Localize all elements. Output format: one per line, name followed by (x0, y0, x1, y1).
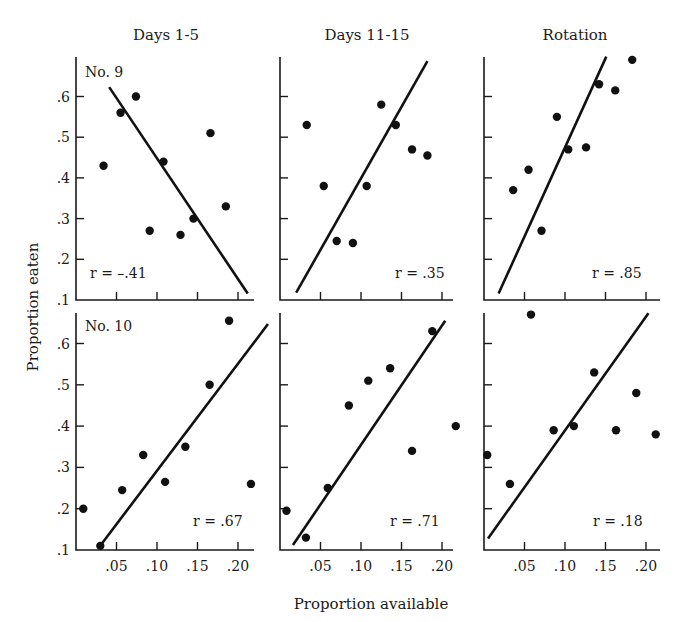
y-tick-label: .4 (57, 418, 70, 434)
data-point (146, 227, 154, 235)
data-point (423, 151, 431, 159)
y-tick-label: .1 (57, 542, 70, 558)
data-point (452, 422, 460, 430)
regression-line (499, 57, 607, 294)
x-tick-label: .15 (594, 558, 616, 574)
data-point (159, 157, 167, 165)
data-point (324, 484, 332, 492)
scatter-panel: .1.2.3.4.5.6.05.10.15.20No. 10r = .67 (57, 313, 268, 574)
data-point (582, 143, 590, 151)
data-point (333, 237, 341, 245)
data-point (377, 100, 385, 108)
data-point (509, 186, 517, 194)
data-point (611, 86, 619, 94)
data-point (527, 310, 535, 318)
data-point (524, 166, 532, 174)
panel-label: No. 9 (85, 64, 123, 80)
scatter-panel: r = .35 (280, 57, 453, 300)
data-point (408, 447, 416, 455)
x-tick-label: .20 (227, 558, 249, 574)
y-tick-label: .2 (57, 501, 70, 517)
data-point (590, 368, 598, 376)
data-point (118, 486, 126, 494)
data-point (362, 182, 370, 190)
x-tick-label: .20 (431, 558, 453, 574)
data-point (79, 505, 87, 513)
data-point (428, 327, 436, 335)
y-tick-label: .1 (57, 292, 70, 308)
data-point (222, 202, 230, 210)
data-point (96, 542, 104, 550)
data-point (282, 507, 290, 515)
data-point (506, 480, 514, 488)
data-point (652, 430, 660, 438)
data-point (408, 145, 416, 153)
panel-axes (280, 57, 453, 300)
scatter-figure: Days 1-5 Days 11-15 Rotation .1.2.3.4.5.… (0, 0, 674, 622)
panel-grid: .1.2.3.4.5.6No. 9r = –.41r = .35r = .85.… (57, 56, 660, 574)
panel-label: No. 10 (85, 318, 132, 334)
column-titles: Days 1-5 Days 11-15 Rotation (133, 26, 608, 44)
x-tick-label: .05 (513, 558, 535, 574)
data-point (345, 401, 353, 409)
y-tick-label: .5 (57, 129, 70, 145)
y-tick-label: .6 (57, 336, 70, 352)
x-tick-label: .10 (350, 558, 372, 574)
correlation-label: r = .67 (193, 513, 243, 529)
scatter-panel: .1.2.3.4.5.6No. 9r = –.41 (57, 57, 254, 308)
x-tick-label: .05 (105, 558, 127, 574)
y-tick-label: .4 (57, 170, 70, 186)
data-point (386, 364, 394, 372)
data-point (349, 239, 357, 247)
regression-line (296, 61, 427, 293)
panel-axes (484, 57, 660, 300)
correlation-label: r = .85 (592, 265, 642, 281)
data-point (205, 381, 213, 389)
data-point (564, 145, 572, 153)
y-tick-label: .3 (57, 211, 70, 227)
correlation-label: r = .35 (395, 265, 445, 281)
data-point (553, 113, 561, 121)
data-point (132, 92, 140, 100)
x-tick-label: .10 (146, 558, 168, 574)
y-axis-label: Proportion eaten (24, 242, 42, 371)
x-tick-label: .20 (635, 558, 657, 574)
x-tick-label: .10 (554, 558, 576, 574)
data-point (181, 443, 189, 451)
data-point (612, 426, 620, 434)
data-point (176, 231, 184, 239)
correlation-label: r = .71 (390, 513, 440, 529)
x-axis-label: Proportion available (294, 595, 449, 613)
data-point (570, 422, 578, 430)
data-point (628, 56, 636, 64)
y-tick-label: .6 (57, 89, 70, 105)
correlation-label: r = –.41 (90, 265, 147, 281)
y-tick-label: .3 (57, 459, 70, 475)
x-tick-label: .15 (390, 558, 412, 574)
data-point (116, 109, 124, 117)
data-point (99, 161, 107, 169)
data-point (303, 121, 311, 129)
data-point (392, 121, 400, 129)
regression-line (488, 313, 648, 538)
data-point (206, 129, 214, 137)
column-title-rotation: Rotation (543, 26, 608, 44)
data-point (247, 480, 255, 488)
column-title-days-1-5: Days 1-5 (133, 26, 199, 44)
data-point (225, 317, 233, 325)
data-point (302, 533, 310, 541)
data-point (537, 227, 545, 235)
regression-line (99, 324, 267, 547)
data-point (161, 478, 169, 486)
y-tick-label: .5 (57, 377, 70, 393)
y-tick-label: .2 (57, 251, 70, 267)
x-tick-label: .15 (186, 558, 208, 574)
data-point (139, 451, 147, 459)
data-point (549, 426, 557, 434)
column-title-days-11-15: Days 11-15 (324, 26, 409, 44)
correlation-label: r = .18 (593, 513, 643, 529)
scatter-panel: r = .85 (484, 56, 660, 300)
regression-line (109, 87, 248, 293)
scatter-panel: .05.10.15.20r = .18 (483, 310, 660, 574)
data-point (483, 451, 491, 459)
